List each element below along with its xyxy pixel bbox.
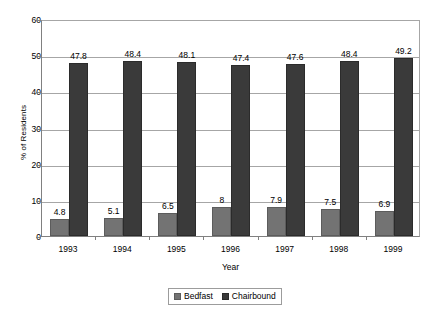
bar-group: 6.949.2 [367,21,421,236]
legend-swatch-chairbound-icon [222,293,229,300]
bar-bedfast-1997 [267,207,286,236]
bar-group: 5.148.4 [96,21,150,236]
bar-group-bars: 5.148.4 [96,21,150,236]
bar-group-bars: 6.949.2 [367,21,421,236]
bar-value-label: 48.4 [335,50,363,59]
plot-area: 4.847.85.148.46.548.1847.47.947.67.548.4… [41,20,420,237]
x-axis-tick-mark [149,236,150,240]
bar-value-label: 47.8 [65,52,93,61]
bar-chairbound-1995 [177,62,196,236]
bar-value-label: 49.2 [389,47,417,56]
x-axis-tick-label-1995: 1995 [146,244,206,254]
bar-bedfast-1998 [321,209,340,236]
x-axis-tick-labels: 1993199419951996199719981999 [41,244,420,258]
bar-value-label: 48.4 [119,50,147,59]
legend-label-chairbound: Chairbound [232,291,276,301]
bar-chairbound-1998 [340,61,359,236]
x-axis-tick-label-1998: 1998 [309,244,369,254]
x-axis-tick-mark [258,236,259,240]
bar-group-bars: 7.947.6 [259,21,313,236]
x-axis-title: Year [41,262,420,272]
bar-bedfast-1996 [212,207,231,236]
x-axis-tick-mark [95,236,96,240]
x-axis-tick-label-1996: 1996 [201,244,261,254]
bar-bedfast-1995 [158,213,177,237]
bar-chairbound-1997 [286,64,305,236]
bar-bedfast-1994 [104,218,123,236]
bar-group-bars: 4.847.8 [42,21,96,236]
legend-swatch-bedfast-icon [174,293,181,300]
bar-value-label: 47.6 [281,53,309,62]
legend-item-chairbound: Chairbound [222,291,276,301]
bar-bedfast-1999 [375,211,394,236]
bar-value-label: 47.4 [227,54,255,63]
bar-chairbound-1994 [123,61,142,236]
x-axis-tick-mark [366,236,367,240]
x-axis-tick-label-1999: 1999 [363,244,423,254]
legend-label-bedfast: Bedfast [184,291,213,301]
bar-group: 4.847.8 [42,21,96,236]
bar-chairbound-1999 [394,58,413,236]
y-axis: 0102030405060 [0,20,41,237]
x-axis-tick-label-1993: 1993 [38,244,98,254]
bar-chart: % of Residents 0102030405060 4.847.85.14… [0,0,438,315]
x-axis-tick-label-1997: 1997 [255,244,315,254]
bar-bedfast-1993 [50,219,69,236]
bar-value-label: 48.1 [173,51,201,60]
bar-chairbound-1993 [69,63,88,236]
bar-chairbound-1996 [231,65,250,236]
y-axis-tick-mark [36,237,41,238]
legend-item-bedfast: Bedfast [174,291,213,301]
bar-group: 847.4 [204,21,258,236]
bar-group: 7.548.4 [313,21,367,236]
x-axis-tick-mark [203,236,204,240]
bar-group-bars: 7.548.4 [313,21,367,236]
bar-group-bars: 847.4 [204,21,258,236]
chart-legend: Bedfast Chairbound [168,288,282,305]
bar-group-bars: 6.548.1 [150,21,204,236]
bar-group: 6.548.1 [150,21,204,236]
bar-group: 7.947.6 [259,21,313,236]
x-axis-tick-label-1994: 1994 [92,244,152,254]
x-axis-tick-mark [312,236,313,240]
bar-groups: 4.847.85.148.46.548.1847.47.947.67.548.4… [42,21,419,236]
